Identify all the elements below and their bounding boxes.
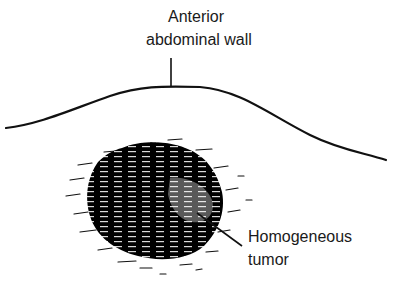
abdominal-wall-curve bbox=[6, 87, 386, 160]
diagram-canvas: Anterior abdominal wall Homogeneous tumo… bbox=[0, 0, 417, 289]
wall-label-line1: Anterior bbox=[168, 6, 224, 28]
tumor-label-line1: Homogeneous bbox=[248, 226, 352, 248]
wall-label-line2: abdominal wall bbox=[146, 29, 252, 51]
tumor-label-line2: tumor bbox=[248, 249, 289, 271]
